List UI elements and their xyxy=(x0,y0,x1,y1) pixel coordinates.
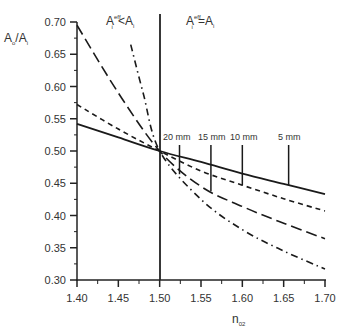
series-line-10-mm xyxy=(77,105,325,211)
thickness-markers xyxy=(180,145,289,191)
y-tick-label: 0.40 xyxy=(45,210,66,222)
series-group xyxy=(77,25,325,269)
annotation-10mm: 10 mm xyxy=(230,132,258,142)
x-tick-label: 1.60 xyxy=(232,292,253,304)
annotation-20mm: 20 mm xyxy=(163,132,191,142)
annotation-15mm: 15 mm xyxy=(198,132,226,142)
y-tick-label: 0.50 xyxy=(45,145,66,157)
y-tick-label: 0.35 xyxy=(45,242,66,254)
y-tick-label: 0.65 xyxy=(45,48,66,60)
y-ticks: 0.300.350.400.450.500.550.600.650.70 xyxy=(45,16,77,286)
y-tick-label: 0.60 xyxy=(45,81,66,93)
region-label-right: Aeffi=Ai xyxy=(186,14,214,30)
chart: 0.300.350.400.450.500.550.600.650.70 1.4… xyxy=(0,0,355,334)
x-tick-label: 1.40 xyxy=(66,292,87,304)
y-tick-label: 0.55 xyxy=(45,113,66,125)
x-tick-label: 1.50 xyxy=(149,292,170,304)
x-tick-label: 1.70 xyxy=(314,292,335,304)
y-tick-label: 0.45 xyxy=(45,177,66,189)
x-ticks: 1.401.451.501.551.601.651.70 xyxy=(66,280,335,304)
y-tick-label: 0.30 xyxy=(45,274,66,286)
x-tick-label: 1.55 xyxy=(190,292,211,304)
x-tick-label: 1.45 xyxy=(108,292,129,304)
annotation-5mm: 5 mm xyxy=(278,132,301,142)
x-axis-label: n02 xyxy=(232,312,246,327)
y-tick-label: 0.70 xyxy=(45,16,66,28)
y-axis-label: Ao/Ai xyxy=(4,31,28,46)
region-label-left: Aeffi<Ai xyxy=(106,14,134,30)
x-tick-label: 1.65 xyxy=(273,292,294,304)
